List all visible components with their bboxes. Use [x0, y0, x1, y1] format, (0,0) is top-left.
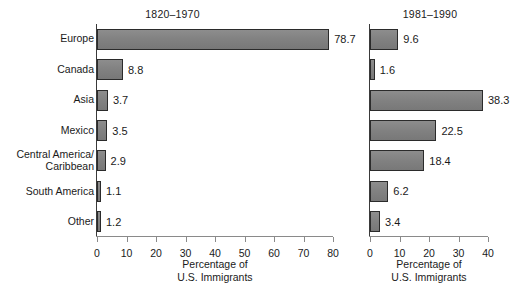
x-axis-tick [156, 237, 157, 242]
bar-value-label: 8.8 [123, 64, 143, 76]
bar-row: 2.9 [97, 150, 333, 171]
category-label: Europe [0, 33, 94, 45]
plot-area-right: 0102030409.61.638.322.518.46.23.4 [370, 24, 488, 237]
bar-value-label: 1.6 [375, 64, 395, 76]
bar[interactable] [97, 120, 107, 141]
x-axis-tick [429, 237, 430, 242]
bar-row: 9.6 [370, 29, 488, 50]
x-axis-caption-right: Percentage of U.S. Immigrants [370, 258, 488, 284]
bar[interactable] [370, 90, 483, 111]
bar-value-label: 3.4 [380, 216, 400, 228]
x-axis-tick [488, 237, 489, 242]
bar-value-label: 3.5 [107, 125, 127, 137]
bar[interactable] [370, 181, 388, 202]
bar-row: 18.4 [370, 150, 488, 171]
x-axis-tick [97, 237, 98, 242]
x-axis-tick [400, 237, 401, 242]
bar-value-label: 3.7 [108, 94, 128, 106]
bar[interactable] [97, 90, 108, 111]
bar-row: 8.8 [97, 59, 333, 80]
category-label: South America [0, 186, 94, 198]
plot-area-left: 0102030405060708078.78.83.73.52.91.11.2 [97, 24, 333, 237]
category-label: Asia [0, 94, 94, 106]
bar-value-label: 2.9 [106, 155, 126, 167]
bar-value-label: 6.2 [388, 185, 408, 197]
panel-title-right: 1981–1990 [345, 8, 515, 20]
bar[interactable] [97, 150, 106, 171]
x-axis-tick [333, 237, 334, 242]
bar-row: 78.7 [97, 29, 333, 50]
category-axis-labels: EuropeCanadaAsiaMexicoCentral America/ C… [0, 24, 94, 237]
bar-value-label: 9.6 [398, 33, 418, 45]
bar-row: 3.7 [97, 90, 333, 111]
x-axis-caption-left: Percentage of U.S. Immigrants [97, 258, 333, 284]
bar[interactable] [370, 150, 424, 171]
bar[interactable] [370, 29, 398, 50]
x-axis-tick [370, 237, 371, 242]
bar[interactable] [370, 211, 380, 232]
x-axis-tick [459, 237, 460, 242]
bar-row: 3.4 [370, 211, 488, 232]
bar-row: 1.2 [97, 211, 333, 232]
bar-value-label: 38.3 [483, 94, 509, 106]
category-label: Central America/ Caribbean [0, 149, 94, 172]
panel-title-left: 1820–1970 [0, 8, 345, 20]
bar-value-label: 18.4 [424, 155, 450, 167]
bar-row: 22.5 [370, 120, 488, 141]
bar-row: 1.6 [370, 59, 488, 80]
bar-value-label: 1.1 [101, 185, 121, 197]
bar[interactable] [97, 29, 329, 50]
bar-row: 3.5 [97, 120, 333, 141]
immigration-bar-chart-figure: 1820–1970 EuropeCanadaAsiaMexicoCentral … [0, 0, 515, 294]
x-axis-tick [215, 237, 216, 242]
x-axis-tick [245, 237, 246, 242]
category-label: Other [0, 216, 94, 228]
bar[interactable] [370, 120, 436, 141]
x-axis-tick [274, 237, 275, 242]
bar[interactable] [97, 59, 123, 80]
category-label: Canada [0, 64, 94, 76]
bar-row: 6.2 [370, 181, 488, 202]
bar-value-label: 1.2 [101, 216, 121, 228]
bar-value-label: 22.5 [436, 125, 462, 137]
bar-row: 38.3 [370, 90, 488, 111]
x-axis-tick [186, 237, 187, 242]
bar-row: 1.1 [97, 181, 333, 202]
x-axis-tick [304, 237, 305, 242]
x-axis-tick [127, 237, 128, 242]
category-label: Mexico [0, 125, 94, 137]
